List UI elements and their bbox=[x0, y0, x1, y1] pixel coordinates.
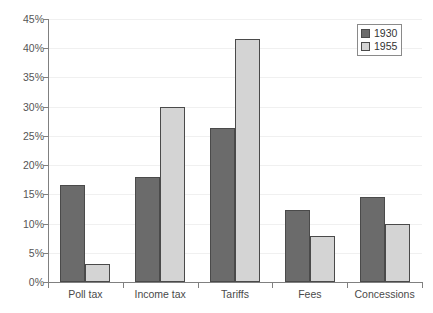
legend-item-label: 1930 bbox=[374, 27, 397, 40]
y-tick-mark bbox=[43, 107, 48, 108]
chart-legend: 1930 1955 bbox=[357, 24, 402, 56]
y-tick-label: 40% bbox=[23, 42, 44, 54]
y-tick-mark bbox=[43, 136, 48, 137]
legend-item[interactable]: 1955 bbox=[361, 40, 397, 53]
y-tick-mark bbox=[43, 253, 48, 254]
y-tick-mark bbox=[43, 48, 48, 49]
x-tick-mark bbox=[347, 283, 348, 288]
x-axis-labels: Poll taxIncome taxTariffsFeesConcessions bbox=[48, 288, 423, 308]
y-tick-mark bbox=[43, 224, 48, 225]
x-tick-label: Fees bbox=[298, 288, 321, 300]
x-tick-label: Tariffs bbox=[221, 288, 249, 300]
x-tick-mark bbox=[123, 283, 124, 288]
x-tick-label: Concessions bbox=[355, 288, 415, 300]
bar-poll-tax-1930 bbox=[60, 185, 85, 282]
gridline bbox=[48, 19, 422, 20]
y-tick-label: 10% bbox=[23, 218, 44, 230]
x-tick-label: Poll tax bbox=[68, 288, 102, 300]
y-tick-label: 30% bbox=[23, 101, 44, 113]
legend-swatch-icon bbox=[361, 42, 370, 51]
y-tick-label: 20% bbox=[23, 159, 44, 171]
bar-tariffs-1930 bbox=[210, 128, 235, 282]
y-tick-mark bbox=[43, 165, 48, 166]
bar-fees-1955 bbox=[310, 236, 335, 282]
y-tick-mark bbox=[43, 194, 48, 195]
legend-swatch-icon bbox=[361, 29, 370, 38]
bar-concessions-1930 bbox=[360, 197, 385, 282]
bar-poll-tax-1955 bbox=[85, 264, 110, 282]
legend-item-label: 1955 bbox=[374, 40, 397, 53]
y-tick-label: 45% bbox=[23, 13, 44, 25]
y-axis-labels: 0%5%10%15%20%25%30%35%40%45% bbox=[0, 0, 44, 313]
y-tick-label: 35% bbox=[23, 71, 44, 83]
bar-tariffs-1955 bbox=[235, 39, 260, 282]
x-tick-mark bbox=[422, 283, 423, 288]
x-axis-line bbox=[48, 282, 423, 283]
x-tick-label: Income tax bbox=[135, 288, 186, 300]
x-tick-mark bbox=[198, 283, 199, 288]
y-tick-label: 5% bbox=[29, 247, 44, 259]
x-tick-mark bbox=[48, 283, 49, 288]
bar-income-tax-1930 bbox=[135, 177, 160, 282]
y-tick-label: 15% bbox=[23, 188, 44, 200]
y-axis-line bbox=[48, 19, 49, 283]
y-tick-mark bbox=[43, 19, 48, 20]
y-tick-label: 25% bbox=[23, 130, 44, 142]
bar-fees-1930 bbox=[285, 210, 310, 282]
y-tick-label: 0% bbox=[29, 276, 44, 288]
x-tick-mark bbox=[272, 283, 273, 288]
legend-item[interactable]: 1930 bbox=[361, 27, 397, 40]
bar-chart: 0%5%10%15%20%25%30%35%40%45% Poll taxInc… bbox=[0, 0, 433, 313]
bar-income-tax-1955 bbox=[160, 107, 185, 282]
y-tick-mark bbox=[43, 77, 48, 78]
plot-area bbox=[48, 19, 422, 282]
bar-concessions-1955 bbox=[385, 224, 410, 282]
